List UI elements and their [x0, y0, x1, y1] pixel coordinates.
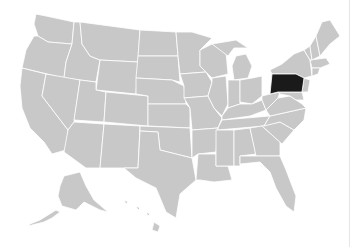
- state-maine: [316, 20, 340, 56]
- state-arkansas: [192, 128, 218, 158]
- state-florida: [240, 156, 296, 212]
- state-new-mexico: [100, 124, 140, 168]
- state-kansas: [148, 104, 190, 128]
- state-ohio: [240, 76, 262, 104]
- state-connecticut: [312, 68, 320, 76]
- state-indiana: [228, 80, 240, 108]
- state-colorado: [104, 92, 148, 126]
- state-pennsylvania: [270, 74, 304, 94]
- state-iowa: [180, 72, 212, 98]
- us-map: [0, 0, 354, 247]
- state-wyoming: [96, 60, 138, 94]
- state-alaska: [58, 172, 108, 212]
- state-hawaii: [124, 200, 160, 232]
- state-alaska-islands: [28, 210, 60, 226]
- state-north-dakota: [138, 30, 178, 56]
- state-mississippi: [216, 130, 234, 166]
- state-arizona: [64, 122, 104, 168]
- frame-edge: [349, 0, 350, 247]
